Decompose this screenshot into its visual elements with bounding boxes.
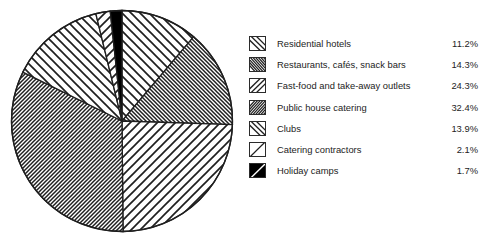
hatch-slash-sparse-icon bbox=[249, 78, 266, 93]
legend-row[interactable]: Clubs13.9% bbox=[249, 118, 481, 139]
hatch-backslash-sparse-icon bbox=[249, 121, 266, 136]
chart-legend: Residential hotels11.2%Restaurants, café… bbox=[249, 33, 481, 181]
legend-value: 1.7% bbox=[436, 165, 478, 176]
legend-value: 24.3% bbox=[436, 80, 478, 91]
legend-row[interactable]: Restaurants, cafés, snack bars14.3% bbox=[249, 54, 481, 75]
legend-value: 11.2% bbox=[436, 38, 478, 49]
legend-label: Restaurants, cafés, snack bars bbox=[277, 59, 436, 70]
pie-svg bbox=[10, 9, 234, 233]
legend-label: Catering contractors bbox=[277, 144, 436, 155]
pie-slice[interactable] bbox=[122, 121, 232, 232]
pie-chart-figure: Residential hotels11.2%Restaurants, café… bbox=[0, 0, 489, 243]
hatch-slash-verysparse-icon bbox=[249, 142, 266, 157]
legend-value: 32.4% bbox=[436, 102, 478, 113]
legend-value: 14.3% bbox=[436, 59, 478, 70]
legend-label: Residential hotels bbox=[277, 38, 436, 49]
legend-value: 2.1% bbox=[436, 144, 478, 155]
legend-row[interactable]: Catering contractors2.1% bbox=[249, 139, 481, 160]
legend-row[interactable]: Holiday camps1.7% bbox=[249, 160, 481, 181]
legend-value: 13.9% bbox=[436, 123, 478, 134]
legend-label: Fast-food and take-away outlets bbox=[277, 80, 436, 91]
solid-black-icon bbox=[249, 163, 266, 178]
legend-label: Public house catering bbox=[277, 102, 436, 113]
hatch-backslash-dense-icon bbox=[249, 57, 266, 72]
pie-slices-group bbox=[12, 11, 233, 232]
legend-row[interactable]: Residential hotels11.2% bbox=[249, 33, 481, 54]
legend-label: Clubs bbox=[277, 123, 436, 134]
hatch-backslash-sparse-icon bbox=[249, 36, 266, 51]
legend-label: Holiday camps bbox=[277, 165, 436, 176]
hatch-slash-dense-icon bbox=[249, 100, 266, 115]
pie-chart-graphic bbox=[10, 9, 234, 233]
legend-row[interactable]: Public house catering32.4% bbox=[249, 97, 481, 118]
legend-row[interactable]: Fast-food and take-away outlets24.3% bbox=[249, 75, 481, 96]
